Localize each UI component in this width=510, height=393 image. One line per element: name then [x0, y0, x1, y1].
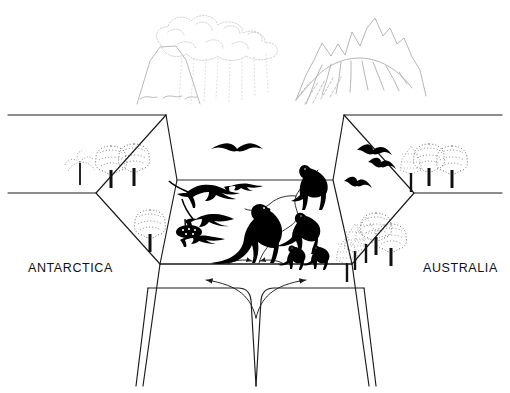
broadleaf-tree-icon — [436, 146, 467, 188]
sauropod-silhouette — [169, 181, 240, 208]
broadleaf-tree-icon — [95, 146, 126, 188]
lithosphere-blocks — [136, 264, 376, 386]
left-plateau-vegetation — [65, 144, 166, 252]
small-theropod-silhouette — [302, 246, 330, 271]
pterosaur-silhouette — [357, 144, 392, 155]
broadleaf-tree-icon — [134, 210, 165, 252]
river — [296, 77, 341, 104]
conifer-tree-icon — [400, 146, 422, 192]
palm-tree-icon — [65, 151, 94, 185]
label-australia: AUSTRALIA — [423, 261, 498, 275]
pterosaur-silhouette — [211, 143, 263, 151]
fauna-silhouettes — [169, 143, 396, 270]
spreading-right-arrow — [256, 280, 306, 318]
large-theropod-silhouette — [211, 204, 282, 264]
pterosaur-silhouette — [368, 158, 396, 169]
label-antarctica: ANTARCTICA — [28, 261, 113, 275]
spreading-left-arrow — [206, 280, 256, 318]
right-plateau — [333, 115, 502, 264]
paleogeographic-block-diagram — [0, 0, 510, 393]
small-quadruped-silhouette — [224, 184, 263, 192]
low-shrub-silhouette — [176, 225, 202, 238]
rift-edge-theropod-silhouette — [291, 165, 328, 210]
pterosaur-silhouette — [344, 177, 372, 188]
left-plateau — [8, 115, 177, 264]
ash-cloud — [157, 16, 278, 61]
broadleaf-tree-icon — [375, 224, 406, 266]
mountain-range — [296, 18, 426, 104]
